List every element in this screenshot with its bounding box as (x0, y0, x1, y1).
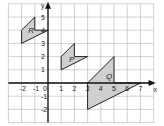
shapes: RPQ (22, 17, 141, 109)
y-tick-label: -1 (41, 93, 47, 100)
y-tick-label: 1 (41, 66, 45, 73)
y-tick-label: -2 (41, 106, 47, 113)
coordinate-grid: RPQ xy -2-101234567-2-112345 (0, 0, 164, 126)
axes: xy (8, 2, 157, 123)
x-tick-label: 5 (112, 85, 116, 92)
y-tick-label: 3 (41, 40, 45, 47)
y-tick-label: 5 (41, 14, 45, 21)
shape-label-p: P (69, 55, 75, 64)
x-axis-label: x (154, 86, 158, 93)
y-tick-label: 2 (41, 53, 45, 60)
y-tick-label: 4 (41, 27, 45, 34)
x-tick-label: 3 (86, 85, 90, 92)
x-tick-label: 4 (99, 85, 103, 92)
x-tick-label: 6 (125, 85, 129, 92)
y-axis-arrow-icon (45, 2, 51, 9)
shape-label-r: R (28, 26, 34, 35)
shape-label-q: Q (106, 72, 112, 81)
tick-labels: -2-101234567-2-112345 (20, 14, 143, 113)
x-tick-label: 7 (138, 85, 142, 92)
x-tick-label: 0 (43, 85, 47, 92)
x-tick-label: -2 (20, 85, 26, 92)
x-tick-label: 1 (59, 85, 63, 92)
x-tick-label: 2 (72, 85, 76, 92)
x-tick-label: -1 (33, 85, 39, 92)
y-axis-label: y (41, 2, 45, 10)
